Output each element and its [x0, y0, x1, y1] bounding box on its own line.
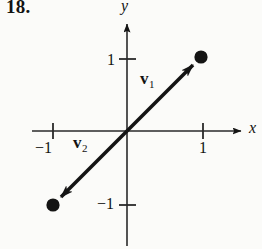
vector-label-v2-subscript: 2	[82, 142, 88, 154]
vector-diagram-figure: 18. y x 1 −1 −1 1 v1 v2	[0, 0, 262, 249]
vector-label-v2-base: v	[73, 133, 82, 152]
coordinate-plane	[0, 0, 262, 249]
vector-label-v1: v1	[140, 70, 155, 90]
point-1-1-dot	[194, 50, 207, 63]
x-tick-label-positive-one: 1	[199, 140, 207, 156]
y-axis-label: y	[121, 0, 128, 14]
point-neg1-neg1-dot	[46, 198, 59, 211]
vector-label-v2: v2	[73, 134, 88, 154]
vector-v2-arrow	[61, 131, 127, 197]
vector-label-v1-base: v	[140, 69, 149, 88]
y-tick-label-negative-one: −1	[97, 196, 114, 212]
x-axis-label: x	[249, 120, 256, 136]
vector-label-v1-subscript: 1	[149, 78, 155, 90]
y-tick-label-positive-one: 1	[107, 52, 115, 68]
x-tick-label-negative-one: −1	[35, 140, 52, 156]
vector-v1-arrow	[127, 65, 193, 131]
